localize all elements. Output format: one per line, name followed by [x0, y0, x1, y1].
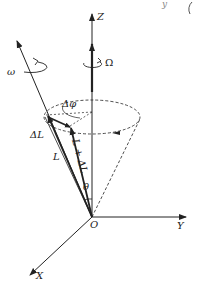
- y-axis: Y: [92, 217, 186, 231]
- x-axis: X: [30, 217, 92, 281]
- omega-precession-label: Ω: [105, 57, 113, 68]
- delta-l-label: ΔL: [29, 129, 44, 140]
- theta-label: θ: [83, 181, 89, 192]
- spin-rotation-icon: [24, 62, 47, 73]
- cropped-caption-fragment: y: [161, 0, 192, 14]
- l-plus-delta-l-label: L + ΔL: [70, 137, 90, 175]
- svg-text:y: y: [161, 0, 168, 9]
- precession-vector: Ω: [84, 44, 114, 92]
- z-axis: Z: [92, 11, 105, 217]
- delta-phi-label: Δφ: [61, 98, 76, 109]
- z-axis-label: Z: [96, 11, 105, 22]
- origin-label: O: [90, 219, 98, 230]
- omega-spin-label: ω: [7, 66, 15, 77]
- precession-diagram: y Z Ω ω Δφ ΔL L L + Δ: [0, 0, 205, 283]
- y-axis-label: Y: [177, 220, 185, 231]
- x-axis-label: X: [35, 270, 44, 281]
- l-label: L: [52, 151, 60, 162]
